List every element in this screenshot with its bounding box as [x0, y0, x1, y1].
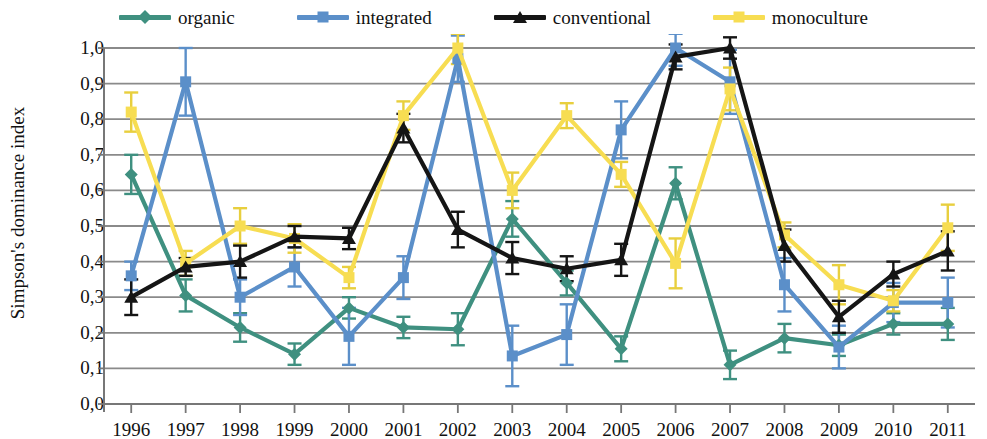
legend-marker-square-icon [713, 10, 765, 24]
plot-area: Simpson's dominance index 1,00,90,80,70,… [0, 34, 987, 439]
marker-square [561, 110, 572, 121]
x-tick-label: 2005 [591, 420, 651, 439]
series-integrated [126, 43, 954, 362]
x-tick-label: 2008 [754, 420, 814, 439]
marker-square [833, 342, 844, 353]
x-tick-label: 2000 [319, 420, 379, 439]
legend-item-organic[interactable]: organic [119, 8, 235, 27]
legend-marker-square-icon [297, 10, 349, 24]
legend-item-integrated[interactable]: integrated [297, 8, 432, 27]
legend-label: organic [178, 8, 235, 27]
marker-square [452, 43, 463, 54]
marker-square [942, 297, 953, 308]
marker-square [616, 124, 627, 135]
legend-label: integrated [356, 8, 432, 27]
chart-canvas [0, 34, 987, 439]
marker-diamond [887, 317, 900, 330]
x-tick-label: 1998 [210, 420, 270, 439]
legend-marker-triangle-icon [494, 10, 546, 24]
x-tick-label: 2009 [809, 420, 869, 439]
marker-square [888, 295, 899, 306]
legend-label: monoculture [772, 8, 868, 27]
marker-square [126, 270, 137, 281]
x-tick-label: 2003 [482, 420, 542, 439]
legend-item-monoculture[interactable]: monoculture [713, 8, 868, 27]
marker-square [398, 110, 409, 121]
chart-root: organicintegratedconventionalmonoculture… [0, 0, 987, 439]
legend-marker-diamond-icon [119, 10, 171, 24]
series-organic [125, 168, 955, 371]
marker-square [289, 261, 300, 272]
chart-legend: organicintegratedconventionalmonoculture [0, 0, 987, 34]
x-tick-label: 2006 [646, 420, 706, 439]
marker-square [779, 279, 790, 290]
x-tick-label: 2011 [918, 420, 978, 439]
series-monoculture [126, 43, 954, 307]
marker-square [180, 76, 191, 87]
marker-square [561, 329, 572, 340]
x-tick-label: 1996 [101, 420, 161, 439]
marker-square [507, 185, 518, 196]
x-tick-label: 1997 [156, 420, 216, 439]
series-line [131, 48, 948, 356]
marker-square [507, 350, 518, 361]
x-tick-label: 2004 [537, 420, 597, 439]
x-tick-label: 1999 [265, 420, 325, 439]
marker-diamond [125, 168, 138, 181]
x-tick-label: 2010 [863, 420, 923, 439]
marker-square [616, 169, 627, 180]
marker-square [235, 221, 246, 232]
x-tick-label: 2001 [373, 420, 433, 439]
errorbars-conventional [124, 37, 955, 332]
marker-diamond [669, 177, 682, 190]
x-tick-label: 2007 [700, 420, 760, 439]
series-line [131, 48, 948, 317]
marker-square [343, 331, 354, 342]
marker-square [398, 272, 409, 283]
marker-square [833, 279, 844, 290]
marker-square [725, 83, 736, 94]
x-tick-label: 2002 [428, 420, 488, 439]
marker-square [126, 107, 137, 118]
marker-square [942, 222, 953, 233]
errorbars-monoculture [124, 34, 955, 311]
legend-label: conventional [553, 8, 651, 27]
marker-square [235, 292, 246, 303]
marker-square [343, 272, 354, 283]
marker-square [670, 258, 681, 269]
legend-item-conventional[interactable]: conventional [494, 8, 651, 27]
